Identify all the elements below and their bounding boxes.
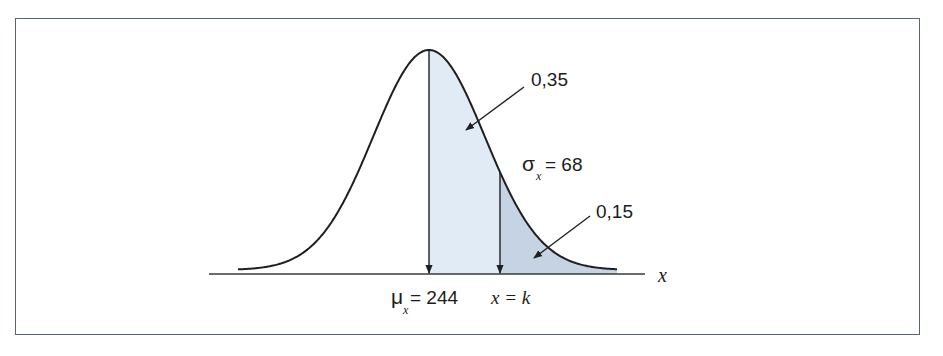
sigma-subscript: x <box>535 169 542 183</box>
x-axis-label: x <box>657 264 667 286</box>
area-label-035: 0,35 <box>531 69 568 90</box>
mean-label: μ x = 244 <box>391 285 459 317</box>
sigma-symbol: σ <box>522 152 535 175</box>
normal-distribution-chart: 0,35 0,15 σ x = 68 μ x = 244 x = k x <box>0 0 943 356</box>
callout-arrow-015 <box>534 216 590 258</box>
sigma-label: σ x = 68 <box>522 152 583 183</box>
callout-arrow-035 <box>466 87 524 130</box>
area-region-beyond-k <box>500 172 617 274</box>
mu-subscript: x <box>402 303 409 317</box>
area-label-015: 0,15 <box>596 201 633 222</box>
k-label: x = k <box>490 287 531 308</box>
area-region-mean-to-k <box>429 50 500 274</box>
mu-symbol: μ <box>391 285 403 308</box>
sigma-value: = 68 <box>545 154 583 175</box>
mean-value: = 244 <box>410 287 459 308</box>
